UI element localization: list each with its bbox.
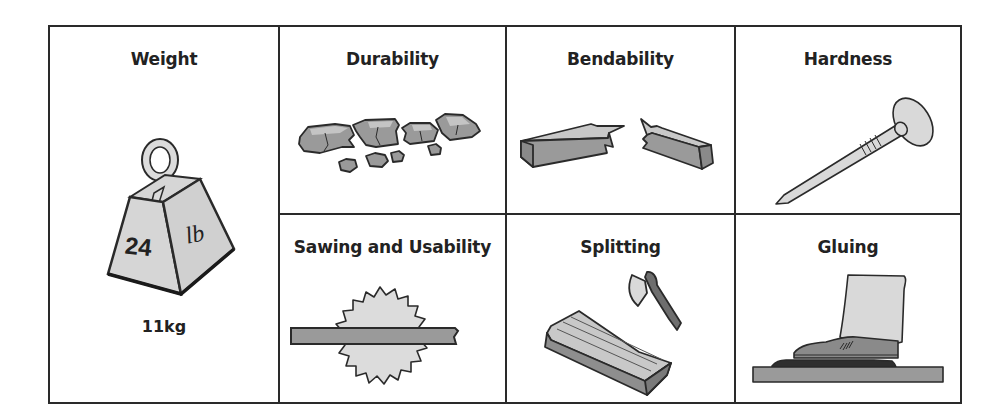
cell-durability: Durability xyxy=(280,27,505,213)
glued-board-boot-icon xyxy=(736,215,960,402)
saw-blade-icon xyxy=(280,215,505,402)
cell-weight: Weight 24 lb 11kg xyxy=(50,27,278,402)
nail-icon xyxy=(736,27,960,213)
weight-icon: 24 lb xyxy=(50,27,278,402)
cell-bendability: Bendability xyxy=(507,27,734,213)
cell-splitting: Splitting xyxy=(507,215,734,402)
cell-hardness: Hardness xyxy=(736,27,960,213)
svg-text:24: 24 xyxy=(124,232,154,262)
broken-plank-icon xyxy=(507,27,734,213)
axe-and-log-icon xyxy=(507,215,734,402)
weight-metric: 11kg xyxy=(50,317,278,336)
cell-sawing: Sawing and Usability xyxy=(280,215,505,402)
properties-grid: Weight 24 lb 11kg Durability xyxy=(48,25,962,404)
cell-gluing: Gluing xyxy=(736,215,960,402)
broken-rocks-icon xyxy=(280,27,505,213)
